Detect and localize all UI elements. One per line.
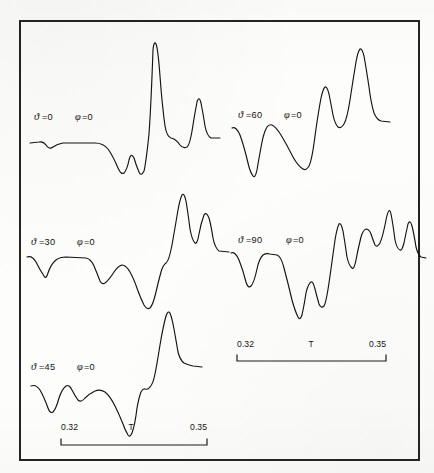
axis-right: 0.32 T 0.35 bbox=[237, 339, 386, 361]
panel-label-phi-value-3: =0 bbox=[291, 110, 302, 120]
panel-label-theta-value-4: =90 bbox=[246, 235, 262, 245]
panel-label-phi-symbol-1: φ bbox=[77, 236, 83, 247]
panel-label-theta-symbol-1: ϑ bbox=[31, 236, 37, 247]
trace-theta-45 bbox=[31, 312, 202, 436]
panel-label-phi-value-0: =0 bbox=[82, 112, 93, 122]
axis-left-variable-label: T bbox=[128, 422, 133, 432]
panel-label-phi-symbol-0: φ bbox=[75, 111, 81, 122]
figure-root: ϑ =0 φ =0 ϑ =30 φ =0 ϑ =45 φ =0 ϑ =60 φ … bbox=[0, 0, 434, 473]
panel-label-phi-symbol-2: φ bbox=[77, 361, 83, 372]
trace-theta-90 bbox=[231, 211, 426, 319]
panel-label-group: ϑ =0 φ =0 ϑ =30 φ =0 ϑ =45 φ =0 ϑ =60 φ … bbox=[31, 109, 304, 372]
panel-label-theta-symbol-0: ϑ bbox=[34, 111, 40, 122]
panel-label-phi-value-2: =0 bbox=[84, 362, 95, 372]
panel-label-theta-symbol-2: ϑ bbox=[31, 361, 37, 372]
panel-label-theta-value-1: =30 bbox=[39, 237, 55, 247]
panel-label-phi-value-4: =0 bbox=[293, 235, 304, 245]
panel-label-theta-value-2: =45 bbox=[39, 362, 55, 372]
axis-right-variable-label: T bbox=[308, 339, 313, 349]
axis-left-min-label: 0.32 bbox=[61, 422, 78, 432]
panel-label-phi-value-1: =0 bbox=[84, 237, 95, 247]
panel-label-theta-value-3: =60 bbox=[246, 110, 262, 120]
axis-left-max-label: 0.35 bbox=[190, 422, 207, 432]
axis-right-min-label: 0.32 bbox=[237, 339, 254, 349]
panel-label-phi-symbol-4: φ bbox=[286, 234, 292, 245]
spectrum-figure-canvas: ϑ =0 φ =0 ϑ =30 φ =0 ϑ =45 φ =0 ϑ =60 φ … bbox=[0, 0, 434, 473]
panel-label-phi-symbol-3: φ bbox=[284, 109, 290, 120]
panel-label-theta-symbol-3: ϑ bbox=[238, 109, 244, 120]
trace-theta-30 bbox=[27, 194, 229, 308]
panel-label-theta-value-0: =0 bbox=[42, 112, 53, 122]
axis-right-scale-bar bbox=[237, 355, 386, 361]
panel-label-theta-symbol-4: ϑ bbox=[238, 234, 244, 245]
axis-left-scale-bar bbox=[61, 439, 207, 445]
axis-right-max-label: 0.35 bbox=[369, 339, 386, 349]
trace-theta-0 bbox=[30, 43, 220, 174]
